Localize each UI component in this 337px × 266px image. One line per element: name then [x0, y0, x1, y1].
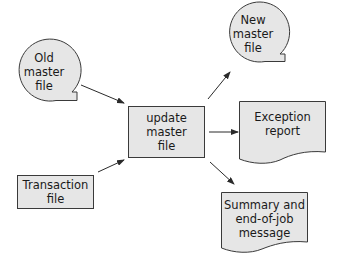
arrow-update-to-new-master	[208, 72, 230, 99]
new-master-file-label: New master file	[223, 11, 283, 57]
label-line: file	[244, 41, 262, 55]
label-line: file	[158, 139, 176, 153]
label-line: end-of-job	[235, 212, 293, 226]
label-line: Exception	[254, 110, 311, 124]
label-line: file	[47, 192, 65, 206]
label-line: Transaction	[23, 178, 89, 192]
label-line: New	[240, 13, 265, 27]
transaction-file-label: Transaction file	[17, 177, 94, 207]
label-line: file	[35, 79, 53, 93]
label-line: master	[233, 27, 274, 41]
summary-message-label: Summary and end-of-job message	[221, 196, 308, 242]
label-line: master	[24, 65, 65, 79]
label-line: update	[146, 111, 187, 125]
label-line: Old	[34, 51, 54, 65]
update-master-file-label: update master file	[128, 109, 205, 155]
exception-report-label: Exception report	[239, 108, 326, 140]
label-line: message	[239, 226, 291, 240]
label-line: master	[146, 125, 187, 139]
label-line: Summary and	[224, 198, 305, 212]
label-line: report	[265, 124, 300, 138]
arrow-update-to-summary	[210, 162, 234, 184]
old-master-file-label: Old master file	[14, 49, 74, 95]
arrow-old-master-to-update	[81, 85, 124, 103]
arrow-transaction-to-update	[98, 160, 124, 172]
